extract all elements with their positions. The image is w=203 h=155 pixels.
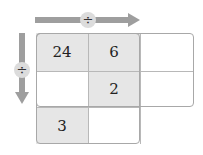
grid-frame-bottom (36, 33, 140, 144)
arrow-right-icon (128, 13, 140, 27)
divide-icon-horizontal: ÷ (80, 12, 96, 28)
arrow-down-icon (15, 92, 29, 104)
divide-icon-vertical: ÷ (14, 62, 30, 78)
